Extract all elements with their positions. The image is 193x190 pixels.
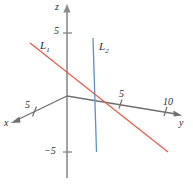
- x-axis-arrow: [11, 117, 21, 123]
- x-axis: [11, 96, 67, 123]
- z-tick-label-5: 5: [54, 26, 59, 36]
- y-axis-arrow: [173, 111, 182, 117]
- x-axis-label: x: [4, 118, 8, 128]
- figure-canvas: z x y 5 −5 5 5 10 L1 L2: [0, 0, 193, 190]
- y-tick-label-5: 5: [119, 89, 124, 99]
- axes-and-lines-svg: [0, 0, 193, 190]
- line-L1: [30, 43, 168, 152]
- z-axis-label: z: [55, 2, 59, 12]
- z-tick-label-minus-5: −5: [44, 146, 56, 156]
- z-axis: [63, 4, 72, 178]
- z-axis-arrow: [63, 4, 70, 13]
- line-label-L2-subscript: 2: [105, 47, 109, 55]
- line-label-L1-subscript: 1: [46, 46, 50, 54]
- line-label-L1: L1: [40, 40, 50, 54]
- x-tick-label-5: 5: [25, 100, 30, 110]
- line-label-L2: L2: [99, 41, 109, 55]
- y-tick-5: [119, 100, 122, 109]
- y-tick-label-10: 10: [163, 97, 173, 107]
- y-axis-label: y: [179, 118, 183, 128]
